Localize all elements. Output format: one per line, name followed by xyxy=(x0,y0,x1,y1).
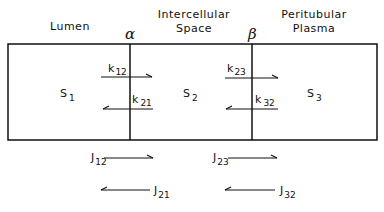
svg-text:S2: S2 xyxy=(183,87,198,103)
svg-text:J23: J23 xyxy=(212,151,229,167)
header-intercellular-line2: Space xyxy=(176,22,212,35)
header-peritubular-line1: Peritubular xyxy=(281,8,347,21)
three-compartment-diagram: Lumen Intercellular Space Peritubular Pl… xyxy=(0,0,384,212)
rate-k12: k12 xyxy=(101,62,152,77)
svg-text:S3: S3 xyxy=(307,87,322,103)
header-intercellular-line1: Intercellular xyxy=(158,8,230,21)
svg-text:k21: k21 xyxy=(132,93,152,108)
svg-text:J12: J12 xyxy=(90,151,107,167)
svg-text:k12: k12 xyxy=(108,62,127,77)
compartment-s2-label: S2 xyxy=(183,87,198,103)
flux-j21: J21 xyxy=(101,184,170,200)
svg-text:k23: k23 xyxy=(227,62,246,77)
flux-j23: J23 xyxy=(212,151,277,167)
flux-j12: J12 xyxy=(90,151,153,167)
svg-text:J32: J32 xyxy=(279,184,296,200)
svg-text:J21: J21 xyxy=(153,184,170,200)
compartment-s1-label: S1 xyxy=(60,87,75,103)
svg-text:k32: k32 xyxy=(255,93,275,108)
svg-text:S1: S1 xyxy=(60,87,75,103)
flux-j32: J32 xyxy=(225,184,296,200)
compartment-s3-label: S3 xyxy=(307,87,322,103)
boundary-beta-label: β xyxy=(247,25,257,43)
boundary-alpha-label: α xyxy=(125,25,135,43)
header-lumen: Lumen xyxy=(50,20,90,33)
rate-k21: k21 xyxy=(103,93,153,109)
header-peritubular-line2: Plasma xyxy=(293,22,336,35)
